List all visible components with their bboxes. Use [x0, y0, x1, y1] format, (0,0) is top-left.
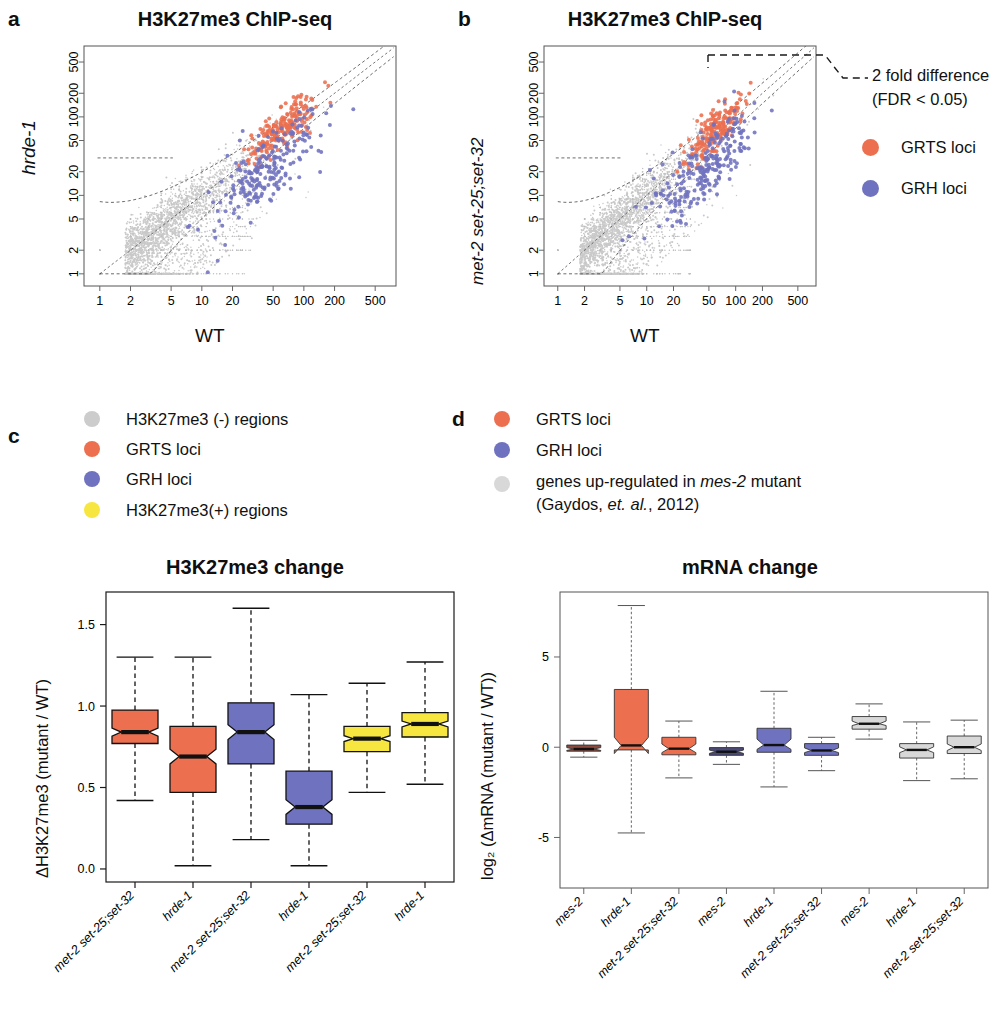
panel-c-legend-label-2: GRH loci — [126, 470, 192, 489]
svg-text:500: 500 — [365, 294, 386, 308]
svg-text:10: 10 — [527, 188, 541, 202]
svg-text:0.0: 0.0 — [78, 862, 95, 876]
legend-dot-grts — [862, 139, 879, 156]
svg-text:-5: -5 — [538, 831, 549, 845]
svg-text:1.5: 1.5 — [78, 618, 95, 632]
panel-d-letter: d — [452, 408, 465, 429]
svg-text:20: 20 — [527, 165, 541, 179]
svg-text:200: 200 — [752, 294, 773, 308]
svg-text:1: 1 — [96, 294, 103, 308]
panel-d-legend-label-2-line2: (Gaydos, et. al., 2012) — [536, 495, 801, 514]
panel-b-legend-label-0: GRTS loci — [901, 138, 976, 157]
panel-c-boxplot: 0.00.51.01.5met-2 set-25;set-32hrde-1met… — [44, 582, 464, 1012]
panel-d-legend: GRTS loci GRH loci genes up-regulated in… — [494, 404, 801, 514]
svg-text:1: 1 — [554, 294, 561, 308]
panel-c-letter: c — [8, 425, 20, 446]
svg-text:0.5: 0.5 — [78, 781, 95, 795]
svg-text:5: 5 — [542, 650, 549, 664]
svg-text:2: 2 — [527, 247, 541, 254]
panel-d-legend-label-2-line1: genes up-regulated in mes-2 mutant — [536, 472, 801, 491]
panel-d-chart-ylabel: log₂ (ΔmRNA (mutant / WT)) — [478, 672, 497, 880]
legend-dot-h3k27me3-neg — [84, 411, 100, 427]
panel-a-letter: a — [8, 8, 20, 29]
svg-text:hrde-1: hrde-1 — [741, 894, 776, 929]
panel-b-annotation-leader — [700, 40, 870, 120]
legend-text-post: mutant — [746, 472, 801, 490]
svg-text:mes-2: mes-2 — [837, 894, 871, 928]
svg-text:200: 200 — [324, 294, 345, 308]
svg-text:20: 20 — [67, 165, 81, 179]
legend-text-gene: mes-2 — [700, 472, 746, 490]
svg-text:500: 500 — [787, 294, 808, 308]
panel-b-title: H3K27me3 ChIP-seq — [500, 8, 830, 31]
legend-citation-italic: et. al. — [608, 495, 648, 513]
svg-text:met-2 set-25;set-32: met-2 set-25;set-32 — [51, 888, 138, 975]
panel-a-xlabel: WT — [195, 325, 225, 347]
svg-text:hrde-1: hrde-1 — [392, 888, 427, 923]
svg-text:met-2 set-25;set-32: met-2 set-25;set-32 — [880, 894, 967, 981]
panel-d-boxplot: -505mes-2hrde-1met-2 set-25;set-32mes-2h… — [500, 582, 1000, 1012]
svg-text:100: 100 — [527, 106, 541, 127]
svg-text:1.0: 1.0 — [78, 700, 95, 714]
panel-a-title: H3K27me3 ChIP-seq — [70, 8, 400, 31]
panel-c-legend-label-0: H3K27me3 (-) regions — [126, 410, 288, 429]
svg-text:2: 2 — [581, 294, 588, 308]
svg-text:200: 200 — [527, 83, 541, 104]
svg-text:5: 5 — [67, 215, 81, 222]
svg-text:1: 1 — [527, 270, 541, 277]
svg-text:hrde-1: hrde-1 — [883, 894, 918, 929]
svg-text:10: 10 — [640, 294, 654, 308]
svg-text:10: 10 — [195, 294, 209, 308]
legend-dot-grts — [494, 411, 510, 427]
svg-text:500: 500 — [527, 52, 541, 73]
panel-d-legend-label-1: GRH loci — [536, 441, 602, 460]
svg-text:200: 200 — [67, 83, 81, 104]
svg-text:500: 500 — [67, 52, 81, 73]
legend-dot-h3k27me3-pos — [84, 502, 100, 518]
panel-c-chart-title: H3K27me3 change — [105, 556, 405, 579]
legend-dot-mes2-upregulated — [494, 476, 510, 492]
panel-b-ylabel: met-2 set-25;set-32 — [468, 138, 488, 285]
svg-text:met-2 set-25;set-32: met-2 set-25;set-32 — [594, 894, 681, 981]
svg-text:hrde-1: hrde-1 — [160, 888, 195, 923]
panel-b-legend-label-1: GRH loci — [901, 179, 967, 198]
svg-text:1: 1 — [67, 270, 81, 277]
svg-text:hrde-1: hrde-1 — [276, 888, 311, 923]
svg-text:0: 0 — [542, 741, 549, 755]
svg-text:10: 10 — [67, 188, 81, 202]
legend-dot-grh — [84, 471, 100, 487]
svg-text:5: 5 — [527, 215, 541, 222]
svg-text:50: 50 — [527, 134, 541, 148]
panel-b-annotation-line1: 2 fold difference — [872, 66, 989, 85]
panel-d-legend-label-0: GRTS loci — [536, 410, 611, 429]
svg-text:50: 50 — [702, 294, 716, 308]
panel-c-legend-label-1: GRTS loci — [126, 440, 201, 459]
panel-b-annotation-line2: (FDR < 0.05) — [872, 90, 968, 109]
svg-text:5: 5 — [168, 294, 175, 308]
legend-dot-grts — [84, 441, 100, 457]
legend-citation-pre: (Gaydos, — [536, 495, 608, 513]
svg-text:5: 5 — [616, 294, 623, 308]
svg-text:mes-2: mes-2 — [694, 894, 728, 928]
svg-text:2: 2 — [127, 294, 134, 308]
panel-d-chart-title: mRNA change — [600, 556, 900, 579]
svg-text:20: 20 — [667, 294, 681, 308]
svg-text:hrde-1: hrde-1 — [598, 894, 633, 929]
svg-text:mes-2: mes-2 — [551, 894, 585, 928]
panel-c-legend-label-3: H3K27me3(+) regions — [126, 501, 288, 520]
legend-citation-post: , 2012) — [648, 495, 699, 513]
legend-dot-grh — [862, 180, 879, 197]
panel-b-xlabel: WT — [630, 325, 660, 347]
svg-text:100: 100 — [67, 106, 81, 127]
svg-text:met-2 set-25;set-32: met-2 set-25;set-32 — [737, 894, 824, 981]
svg-text:100: 100 — [293, 294, 314, 308]
panel-b-legend: GRTS loci GRH loci — [862, 138, 976, 198]
svg-text:20: 20 — [226, 294, 240, 308]
panel-c-legend: H3K27me3 (-) regions GRTS loci GRH loci … — [84, 404, 288, 526]
legend-dot-grh — [494, 442, 510, 458]
panel-b-letter: b — [458, 8, 471, 29]
svg-text:100: 100 — [725, 294, 746, 308]
panel-a-scatter: 125102050100200500125102050100200500 — [36, 38, 406, 328]
legend-text-pre: genes up-regulated in — [536, 472, 700, 490]
svg-text:2: 2 — [67, 247, 81, 254]
